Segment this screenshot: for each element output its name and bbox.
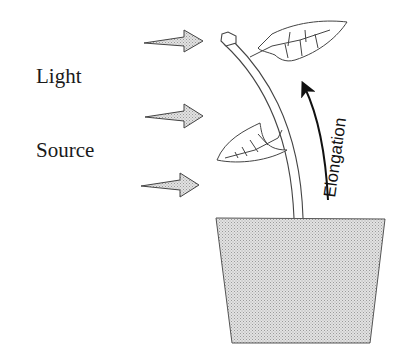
elongation-label: Elongation bbox=[320, 116, 350, 198]
diagram-svg: Elongation bbox=[0, 0, 396, 360]
leaf-lower bbox=[217, 123, 287, 162]
light-arrow-1 bbox=[144, 30, 203, 52]
light-label: Light bbox=[36, 64, 82, 89]
flower-pot bbox=[216, 218, 385, 343]
light-arrow-2 bbox=[145, 104, 203, 128]
source-label: Source bbox=[36, 138, 94, 163]
phototropism-diagram: Elongation Light Source bbox=[0, 0, 396, 360]
leaf-upper bbox=[250, 21, 347, 61]
light-arrow-3 bbox=[141, 173, 199, 197]
